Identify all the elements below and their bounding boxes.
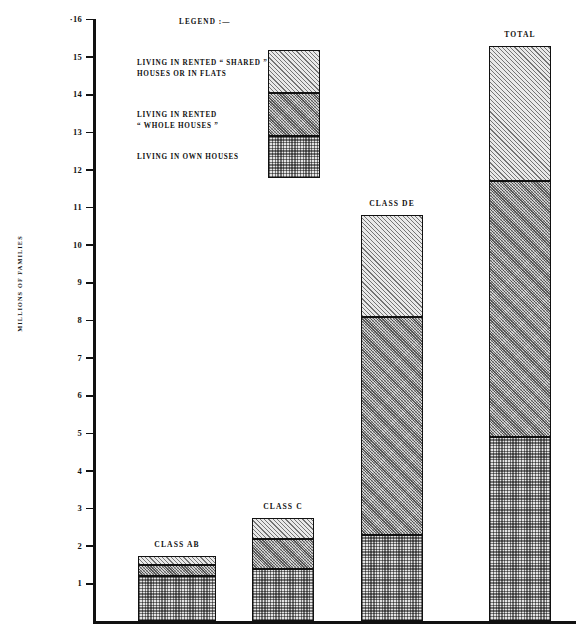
bar-label-de: CLASS DE (332, 199, 452, 208)
legend: LEGEND :— LIVING IN RENTED “ SHARED ” HO… (137, 18, 337, 26)
y-axis-tick-label: 14 (56, 90, 82, 99)
y-axis-tick-label: 9 (56, 278, 82, 287)
y-axis-title: MILLIONS OF FAMILIES (16, 219, 23, 349)
legend-swatch-own (269, 136, 319, 178)
chart-canvas: ·16151413121110987654321 MILLIONS OF FAM… (0, 0, 576, 642)
bar-label-ab: CLASS AB (117, 540, 237, 549)
y-axis-tick-label: 4 (56, 467, 82, 476)
bar-segment-de-whole (362, 317, 422, 535)
y-axis-tick (86, 19, 94, 21)
y-axis-tick (86, 395, 94, 397)
y-axis-tick-label: 15 (56, 53, 82, 62)
legend-swatch-shared (269, 50, 319, 93)
y-axis-tick (86, 320, 94, 322)
y-axis-tick-label: 13 (56, 128, 82, 137)
bar-segment-c-shared (253, 518, 313, 539)
bar-ab (138, 556, 216, 622)
y-axis-tick (86, 207, 94, 209)
y-axis-tick-label: 2 (56, 542, 82, 551)
y-axis-tick-label: 1 (56, 579, 82, 588)
y-axis-tick (86, 583, 94, 585)
y-axis-tick-label: 6 (56, 391, 82, 400)
y-axis-tick (86, 132, 94, 134)
y-axis-tick-label: ·16 (56, 15, 82, 24)
y-axis-tick (86, 433, 94, 435)
bar-de (361, 215, 423, 621)
bar-segment-de-shared (362, 215, 422, 317)
legend-swatches (268, 50, 320, 178)
bar-segment-ab-shared (139, 556, 215, 565)
y-axis-tick-label: 3 (56, 504, 82, 513)
bar-segment-c-whole (253, 539, 313, 569)
y-axis-tick (86, 56, 94, 58)
y-axis-tick (86, 94, 94, 96)
y-axis-tick-label: 5 (56, 429, 82, 438)
y-axis-tick (86, 282, 94, 284)
bar-segment-c-own (253, 569, 313, 622)
y-axis-tick-label: 7 (56, 354, 82, 363)
bar-segment-total-own (490, 437, 550, 621)
legend-swatch-whole (269, 93, 319, 136)
legend-title: LEGEND :— (179, 18, 337, 26)
bar-segment-ab-whole (139, 565, 215, 576)
bar-segment-total-whole (490, 181, 550, 437)
y-axis-tick (86, 508, 94, 510)
bar-c (252, 518, 314, 621)
bar-label-total: TOTAL (460, 30, 576, 39)
y-axis-tick (86, 169, 94, 171)
bar-total (489, 46, 551, 622)
y-axis-tick-label: 10 (56, 241, 82, 250)
y-axis-tick-label: 8 (56, 316, 82, 325)
y-axis-tick (86, 357, 94, 359)
y-axis-tick-label: 12 (56, 166, 82, 175)
y-axis-tick (86, 470, 94, 472)
bar-segment-total-shared (490, 46, 550, 181)
bar-segment-ab-own (139, 576, 215, 621)
bar-segment-de-own (362, 535, 422, 622)
y-axis-tick (86, 545, 94, 547)
bar-label-c: CLASS C (223, 502, 343, 511)
y-axis-tick-label: 11 (56, 203, 82, 212)
y-axis-tick (86, 244, 94, 246)
